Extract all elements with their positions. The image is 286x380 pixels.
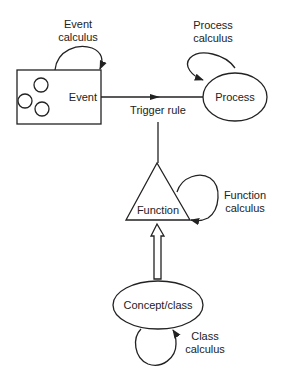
process-calculus-label-line1: Process (193, 19, 233, 31)
event-node: Event (17, 70, 101, 124)
class-calculus-label-line1: Class (191, 330, 219, 342)
concept-class-node: Concept/class (113, 281, 203, 329)
trigger-rule-edge: Trigger rule (101, 94, 203, 163)
event-calculus-label-line1: Event (64, 18, 92, 30)
process-calculus-loop: Process calculus (188, 19, 235, 80)
event-calculus-label-line2: calculus (58, 31, 98, 43)
process-calculus-label-line2: calculus (193, 32, 233, 44)
function-label: Function (137, 204, 179, 216)
function-node: Function (126, 163, 190, 220)
function-calculus-loop: Function calculus (177, 175, 266, 220)
concept-diagram: Event Event calculus Trigger rule Proces… (0, 0, 286, 380)
class-calculus-label-line2: calculus (185, 343, 225, 355)
event-calculus-loop: Event calculus (55, 18, 102, 70)
concept-class-label: Concept/class (123, 299, 193, 311)
hollow-arrow-up-icon (151, 224, 164, 279)
function-calculus-label-line2: calculus (225, 202, 265, 214)
arrow-right-icon (150, 94, 160, 100)
event-label: Event (69, 91, 97, 103)
concept-to-function-arrow (151, 224, 164, 279)
process-node: Process (203, 73, 267, 121)
class-calculus-loop: Class calculus (136, 329, 226, 365)
function-calculus-label-line1: Function (224, 189, 266, 201)
trigger-rule-label: Trigger rule (130, 104, 186, 116)
process-label: Process (215, 91, 255, 103)
